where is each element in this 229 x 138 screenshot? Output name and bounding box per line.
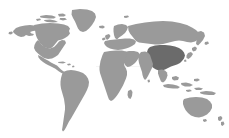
world-map-figure [0, 0, 229, 138]
world-map-svg [0, 0, 229, 138]
